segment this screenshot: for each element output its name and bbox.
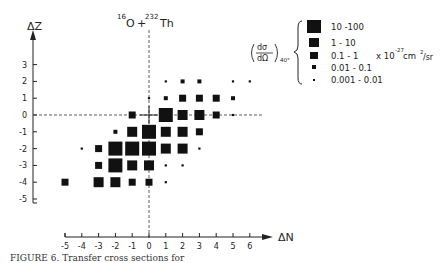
svg-text:/sr: /sr <box>423 53 434 62</box>
y-tick-label: -5 <box>19 195 27 204</box>
data-point <box>142 125 156 139</box>
legend-label-4: 0.01 - 0.1 <box>331 63 372 73</box>
y-tick-label: -4 <box>19 178 27 187</box>
x-ticks: -5-4-3-2-10123456 <box>61 233 252 251</box>
data-point <box>95 145 102 152</box>
y-tick-label: 0 <box>22 111 27 120</box>
data-point <box>232 80 234 82</box>
x-axis-label: ΔN <box>278 231 294 244</box>
data-point <box>178 144 188 154</box>
data-point <box>197 79 201 83</box>
data-point <box>108 142 122 156</box>
y-tick-label: 1 <box>22 94 27 103</box>
x-tick-label: 6 <box>247 242 252 251</box>
x-tick-label: -5 <box>61 242 69 251</box>
data-point <box>108 158 122 172</box>
data-point <box>232 114 234 116</box>
origin-cross <box>140 106 158 124</box>
x-tick-label: -4 <box>78 242 86 251</box>
y-tick-label: -1 <box>19 128 27 137</box>
x-axis-arrow-icon <box>262 234 273 240</box>
data-point <box>213 112 220 119</box>
data-point <box>196 95 203 102</box>
data-point <box>127 127 137 137</box>
data-point <box>142 142 156 156</box>
data-point <box>165 164 167 166</box>
chart-title: 16 O + 232 Th <box>117 13 174 30</box>
data-points <box>62 79 251 187</box>
legend-quantity: dσ dΩ 40° <box>252 43 290 63</box>
data-point <box>125 142 139 156</box>
y-tick-label: -3 <box>19 161 27 170</box>
data-point <box>178 110 188 120</box>
x-axis <box>65 233 262 237</box>
data-point <box>95 162 102 169</box>
data-point <box>159 108 173 122</box>
legend-marker-0.01-0.1 <box>312 65 316 69</box>
x-tick-label: 3 <box>197 242 202 251</box>
legend: dσ dΩ 40° 10 -100 1 - 10 0.1 - 1 0.01 - … <box>252 20 434 85</box>
data-point <box>110 177 120 187</box>
y-axis-label: ΔZ <box>27 20 43 33</box>
data-point <box>113 130 117 134</box>
data-point <box>231 96 235 100</box>
data-point <box>144 160 154 170</box>
legend-unit: x 10 -27 cm 2 /sr <box>376 47 434 62</box>
data-point <box>165 181 167 183</box>
svg-text:x 10: x 10 <box>376 51 395 61</box>
legend-brace <box>294 21 302 84</box>
y-tick-label: 2 <box>22 77 27 86</box>
x-tick-label: 0 <box>146 242 151 251</box>
x-tick-label: -2 <box>111 242 119 251</box>
svg-text:O: O <box>126 17 135 30</box>
data-point <box>161 127 171 137</box>
x-tick-label: -3 <box>95 242 103 251</box>
data-point <box>249 80 251 82</box>
x-tick-label: -1 <box>128 242 136 251</box>
legend-label-3: 0.1 - 1 <box>331 51 358 61</box>
svg-text:dΩ: dΩ <box>257 54 268 63</box>
data-point <box>182 164 184 166</box>
legend-marker-1-10 <box>309 38 319 47</box>
data-point <box>129 112 136 119</box>
svg-text:cm: cm <box>403 51 416 61</box>
x-tick-label: 4 <box>214 242 219 251</box>
svg-text:40°: 40° <box>280 57 290 63</box>
x-tick-label: 1 <box>163 242 168 251</box>
x-tick-label: 2 <box>180 242 185 251</box>
chart-canvas: 3210-1-2-3-4-5 -5-4-3-2-10123456 ΔZ ΔN 1… <box>0 0 441 263</box>
legend-label-2: 1 - 10 <box>331 38 356 48</box>
data-point <box>94 177 104 187</box>
figure-caption: FIGURE 6. Transfer cross sections for <box>10 253 184 263</box>
y-tick-label: 3 <box>22 61 27 70</box>
x-tick-label: 5 <box>230 242 235 251</box>
data-point <box>196 128 203 135</box>
data-point <box>161 144 171 154</box>
data-point <box>165 80 167 82</box>
data-point <box>164 96 168 100</box>
svg-text:Th: Th <box>159 17 174 30</box>
data-point <box>146 179 153 186</box>
data-point <box>198 148 200 150</box>
data-point <box>178 127 188 137</box>
data-point <box>194 110 204 120</box>
svg-text:dσ: dσ <box>257 43 267 52</box>
legend-marker-0.001-0.01 <box>313 79 315 81</box>
svg-text:232: 232 <box>145 13 158 21</box>
y-tick-label: -2 <box>19 145 27 154</box>
data-point <box>127 160 137 170</box>
y-ticks: 3210-1-2-3-4-5 <box>19 61 37 204</box>
data-point <box>81 148 83 150</box>
data-point <box>148 97 150 99</box>
legend-label-1: 10 -100 <box>331 22 364 32</box>
legend-marker-0.1-1 <box>310 52 318 59</box>
legend-marker-10-100 <box>307 20 321 33</box>
data-point <box>213 95 220 102</box>
data-point <box>181 79 185 83</box>
data-point <box>129 179 136 186</box>
data-point <box>62 179 69 186</box>
legend-label-5: 0.001 - 0.01 <box>331 75 383 85</box>
data-point <box>179 95 186 102</box>
